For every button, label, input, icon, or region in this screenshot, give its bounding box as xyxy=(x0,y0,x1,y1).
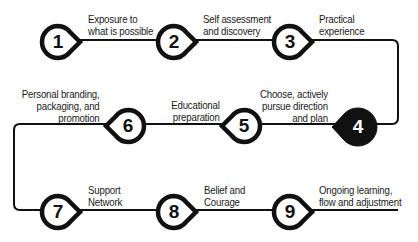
step-1-label: Exposure to what is possible xyxy=(88,13,153,37)
step-7-label: Support Network xyxy=(88,184,122,208)
step-4-number: 4 xyxy=(342,111,374,143)
step-9-number: 9 xyxy=(274,196,306,228)
step-2-label: Self assessment and discovery xyxy=(203,13,271,37)
step-8-label: Belief and Courage xyxy=(204,184,245,208)
step-5-number: 5 xyxy=(228,110,260,142)
step-6-number: 6 xyxy=(112,110,144,142)
step-1-number: 1 xyxy=(42,26,74,58)
step-5-label: Educational preparation xyxy=(172,99,220,123)
step-9-label: Ongoing learning, flow and adjustment xyxy=(319,184,401,208)
step-8-number: 8 xyxy=(158,196,190,228)
step-2-number: 2 xyxy=(158,26,190,58)
step-4-label: Choose, actively pursue direction and pl… xyxy=(260,88,328,124)
step-7-number: 7 xyxy=(42,196,74,228)
step-3-number: 3 xyxy=(274,26,306,58)
step-3-label: Practical experience xyxy=(319,13,364,37)
step-6-label: Personal branding, packaging, and promot… xyxy=(22,88,100,124)
